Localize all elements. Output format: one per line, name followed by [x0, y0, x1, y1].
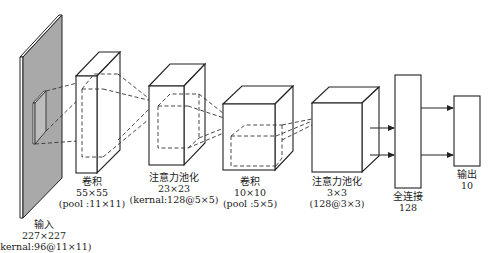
layer-name: 注意力池化: [129, 172, 218, 183]
conv1-label: 卷积 55×55 (pool :11×11): [59, 176, 125, 209]
layer-name: 注意力池化: [309, 176, 364, 187]
fully-connected-label: 全连接 128: [393, 191, 423, 213]
layer-name: 输入: [0, 219, 92, 230]
attention-pool2-label: 注意力池化 3×3 (128@3×3): [309, 176, 364, 209]
fully-connected-box: [395, 75, 421, 188]
layer-size: 10: [457, 180, 477, 191]
conv1-box: [76, 52, 120, 173]
conv2-label: 卷积 10×10 (pool :5×5): [223, 176, 277, 209]
arrows-to-output: [421, 108, 453, 155]
attention-pool1-box: [149, 64, 205, 165]
input-layer-plane: [20, 15, 62, 218]
layer-size: 10×10: [223, 187, 277, 198]
layer-size: 55×55: [59, 187, 125, 198]
conv2-box: [223, 86, 293, 170]
attention-pool2-box: [312, 87, 379, 172]
layer-detail: (pool :5×5): [223, 198, 277, 209]
cnn-architecture-diagram: [0, 0, 491, 253]
layer-detail: (128@3×3): [309, 198, 364, 209]
input-layer-label: 输入 227×227 (kernal:96@11×11): [0, 219, 92, 252]
layer-name: 全连接: [393, 191, 423, 202]
output-label: 输出 10: [457, 169, 477, 191]
layer-size: 23×23: [129, 183, 218, 194]
attention-pool1-label: 注意力池化 23×23 (kernal:128@5×5): [129, 172, 218, 205]
layer-size: 128: [393, 202, 423, 213]
layer-name: 卷积: [59, 176, 125, 187]
layer-name: 卷积: [223, 176, 277, 187]
layer-detail: (kernal:128@5×5): [129, 194, 218, 205]
layer-size: 227×227: [0, 230, 92, 241]
layer-name: 输出: [457, 169, 477, 180]
layer-size: 3×3: [309, 187, 364, 198]
layer-detail: (pool :11×11): [59, 198, 125, 209]
output-box: [454, 96, 480, 166]
layer-detail: (kernal:96@11×11): [0, 241, 92, 252]
